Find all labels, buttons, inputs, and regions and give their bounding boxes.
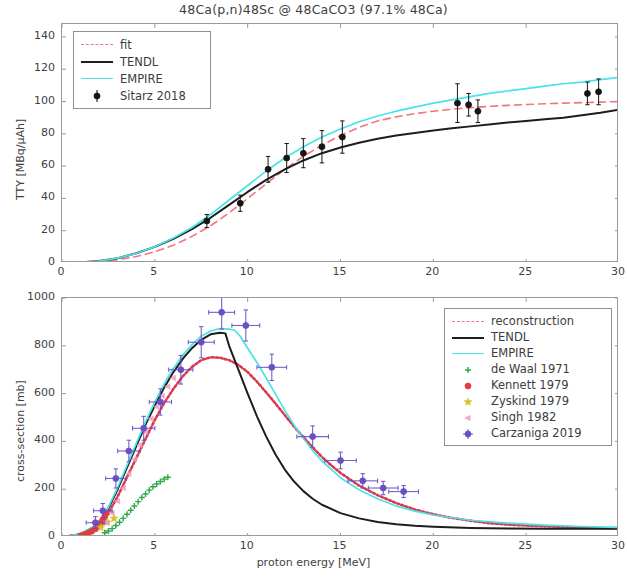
x-tick-label: 5 bbox=[139, 539, 169, 552]
x-tick-label: 0 bbox=[46, 539, 76, 552]
legend-item-kennett-1979[interactable]: Kennett 1979 bbox=[450, 377, 604, 393]
marker-pink-triangle-icon bbox=[450, 411, 486, 424]
x-tick-label: 30 bbox=[603, 539, 627, 552]
x-tick-label: 20 bbox=[417, 265, 447, 278]
legend-item-fit[interactable]: fit bbox=[79, 36, 203, 53]
legend-item-label: de Waal 1971 bbox=[486, 362, 570, 376]
x-tick-label: 0 bbox=[46, 265, 76, 278]
dash-red-icon bbox=[79, 38, 115, 51]
y-tick-label: 20 bbox=[10, 223, 55, 236]
figure-root: 48Ca(p,n)48Sc @ 48CaCO3 (97.1% 48Ca) TTY… bbox=[0, 0, 627, 577]
x-tick-label: 15 bbox=[325, 539, 355, 552]
solid-black-icon bbox=[450, 331, 486, 344]
x-tick-label: 5 bbox=[139, 265, 169, 278]
bottom-legend: reconstructionTENDLEMPIREde Waal 1971Ken… bbox=[444, 308, 612, 446]
y-tick-label: 400 bbox=[10, 433, 55, 446]
legend-item-label: EMPIRE bbox=[115, 72, 163, 86]
x-tick-label: 10 bbox=[232, 539, 262, 552]
marker-green-plus-icon bbox=[450, 363, 486, 376]
legend-item-label: Kennett 1979 bbox=[486, 378, 569, 392]
legend-item-label: Singh 1982 bbox=[486, 410, 556, 424]
errorbar-black-icon bbox=[79, 89, 115, 102]
x-tick-label: 25 bbox=[510, 265, 540, 278]
y-tick-label: 800 bbox=[10, 338, 55, 351]
legend-item-tendl[interactable]: TENDL bbox=[450, 329, 604, 345]
x-tick-label: 15 bbox=[325, 265, 355, 278]
y-tick-label: 100 bbox=[10, 94, 55, 107]
legend-item-reconstruction[interactable]: reconstruction bbox=[450, 313, 604, 329]
legend-item-sitarz-2018[interactable]: Sitarz 2018 bbox=[79, 87, 203, 104]
legend-item-label: Carzaniga 2019 bbox=[486, 426, 582, 440]
y-tick-label: 80 bbox=[10, 126, 55, 139]
legend-item-label: reconstruction bbox=[486, 314, 574, 328]
x-tick-label: 10 bbox=[232, 265, 262, 278]
legend-item-label: EMPIRE bbox=[486, 346, 534, 360]
x-axis-label: proton energy [MeV] bbox=[0, 556, 627, 569]
legend-item-tendl[interactable]: TENDL bbox=[79, 53, 203, 70]
y-tick-label: 1000 bbox=[10, 290, 55, 303]
x-tick-label: 30 bbox=[603, 265, 627, 278]
solid-black-icon bbox=[79, 55, 115, 68]
legend-item-empire[interactable]: EMPIRE bbox=[450, 345, 604, 361]
x-tick-label: 25 bbox=[510, 539, 540, 552]
top-legend: fitTENDLEMPIRESitarz 2018 bbox=[73, 31, 211, 109]
y-tick-label: 40 bbox=[10, 190, 55, 203]
legend-item-de-waal-1971[interactable]: de Waal 1971 bbox=[450, 361, 604, 377]
legend-item-label: Zyskind 1979 bbox=[486, 394, 569, 408]
legend-item-empire[interactable]: EMPIRE bbox=[79, 70, 203, 87]
solid-cyan-icon bbox=[450, 347, 486, 360]
legend-item-zyskind-1979[interactable]: Zyskind 1979 bbox=[450, 393, 604, 409]
legend-item-label: Sitarz 2018 bbox=[115, 89, 186, 103]
y-tick-label: 140 bbox=[10, 29, 55, 42]
y-tick-label: 120 bbox=[10, 61, 55, 74]
marker-purple-dot-icon bbox=[450, 427, 486, 440]
marker-yellow-star-icon bbox=[450, 395, 486, 408]
y-tick-label: 600 bbox=[10, 386, 55, 399]
x-tick-label: 20 bbox=[417, 539, 447, 552]
legend-item-label: TENDL bbox=[115, 55, 158, 69]
y-tick-label: 200 bbox=[10, 481, 55, 494]
solid-cyan-icon bbox=[79, 72, 115, 85]
page-title: 48Ca(p,n)48Sc @ 48CaCO3 (97.1% 48Ca) bbox=[0, 2, 627, 17]
legend-item-singh-1982[interactable]: Singh 1982 bbox=[450, 409, 604, 425]
legend-item-label: fit bbox=[115, 38, 132, 52]
y-tick-label: 60 bbox=[10, 158, 55, 171]
legend-item-carzaniga-2019[interactable]: Carzaniga 2019 bbox=[450, 425, 604, 441]
legend-item-label: TENDL bbox=[486, 330, 529, 344]
dash-red-icon bbox=[450, 315, 486, 328]
marker-red-dot-icon bbox=[450, 379, 486, 392]
